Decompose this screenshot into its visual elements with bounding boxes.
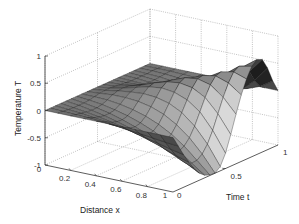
- tick-label: 0.5: [30, 79, 42, 88]
- tick-label: 0.4: [85, 180, 97, 189]
- tick-label: 1: [37, 52, 42, 61]
- tick-label: 0.5: [231, 172, 243, 181]
- tick-label: 1: [283, 148, 288, 157]
- tick-label: 0.2: [59, 174, 71, 183]
- tick-label: 0: [177, 191, 182, 200]
- tick-label: 1: [163, 191, 168, 200]
- tick-label: 0: [37, 107, 42, 116]
- z-axis-label: Temperature T: [13, 81, 23, 136]
- tick-label: 0.6: [110, 185, 122, 194]
- temperature-surface: [45, 59, 278, 175]
- tick-label: 0.8: [136, 191, 148, 200]
- tick-label: -0.5: [27, 134, 41, 143]
- t-axis-label: Time t: [226, 192, 250, 202]
- x-axis-label: Distance x: [80, 205, 120, 215]
- surface-plot: -1-0.500.5100.20.40.60.8100.51 Distance …: [0, 0, 299, 224]
- tick-label: 0: [37, 165, 42, 174]
